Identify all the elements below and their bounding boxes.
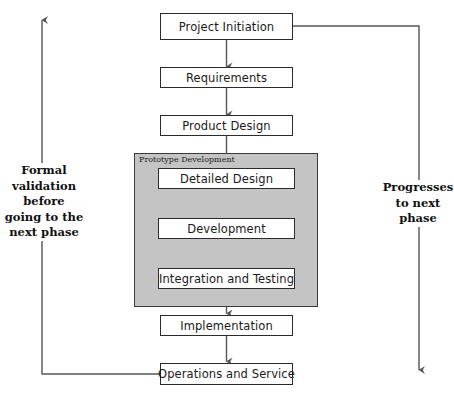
node-implementation[interactable]: Implementation <box>160 315 293 336</box>
node-development[interactable]: Development <box>158 218 295 239</box>
node-product-design[interactable]: Product Design <box>160 115 293 136</box>
node-label: Product Design <box>182 119 270 133</box>
node-requirements[interactable]: Requirements <box>160 67 293 88</box>
flowchart-diagram: Prototype Development Project Initiation… <box>0 0 454 401</box>
node-label: Requirements <box>186 71 267 85</box>
node-label: Operations and Service <box>158 367 295 381</box>
node-integration-and-testing[interactable]: Integration and Testing <box>158 268 295 289</box>
node-label: Detailed Design <box>180 172 273 186</box>
node-label: Project Initiation <box>179 20 274 34</box>
node-detailed-design[interactable]: Detailed Design <box>158 168 295 189</box>
node-label: Implementation <box>180 319 273 333</box>
progresses-to-next-phase-annotation: Progresses to next phase <box>378 180 454 227</box>
node-label: Integration and Testing <box>159 272 294 286</box>
node-project-initiation[interactable]: Project Initiation <box>160 13 293 40</box>
node-label: Development <box>187 222 266 236</box>
node-operations-and-service[interactable]: Operations and Service <box>160 363 293 385</box>
prototype-development-group-label: Prototype Development <box>139 155 235 164</box>
formal-validation-annotation: Formal validation before going to the ne… <box>0 163 88 241</box>
